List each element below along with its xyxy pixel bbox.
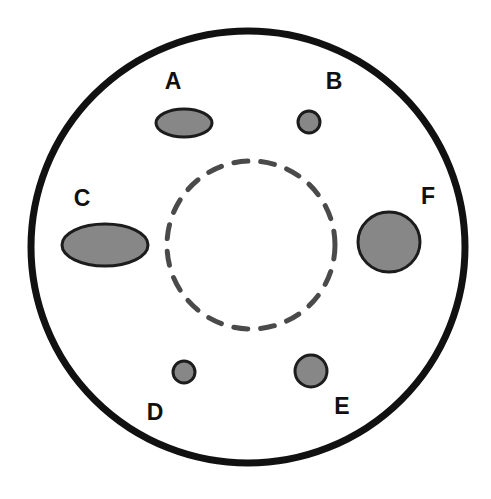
label-a: A bbox=[165, 68, 182, 94]
shape-d bbox=[173, 361, 195, 383]
shape-e bbox=[295, 355, 327, 387]
label-f: F bbox=[421, 183, 435, 209]
label-d: D bbox=[147, 399, 164, 425]
shape-a bbox=[156, 109, 212, 137]
shape-f bbox=[358, 212, 420, 272]
shape-c bbox=[62, 224, 148, 266]
label-c: C bbox=[74, 185, 91, 211]
shape-b bbox=[298, 111, 320, 133]
label-e: E bbox=[334, 393, 349, 419]
label-b: B bbox=[326, 68, 343, 94]
diagram-canvas: ABCDEF bbox=[0, 0, 491, 499]
circular-diagram: ABCDEF bbox=[0, 0, 491, 499]
